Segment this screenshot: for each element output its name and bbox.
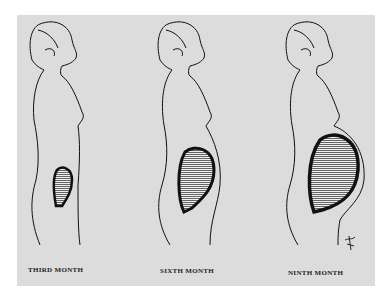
woman-silhouette-3 [286,22,364,245]
artist-signature-icon [345,236,355,250]
label-sixth-month: SIXTH MONTH [160,267,214,275]
uterus-ninth-month [309,135,358,212]
uterus-sixth-month [179,148,214,212]
figure-third-month [0,0,391,293]
woman-silhouette-1 [30,22,83,245]
label-ninth-month: NINTH MONTH [288,269,343,277]
label-third-month: THIRD MONTH [28,266,83,274]
uterus-third-month [54,168,72,206]
woman-silhouette-2 [158,22,220,245]
